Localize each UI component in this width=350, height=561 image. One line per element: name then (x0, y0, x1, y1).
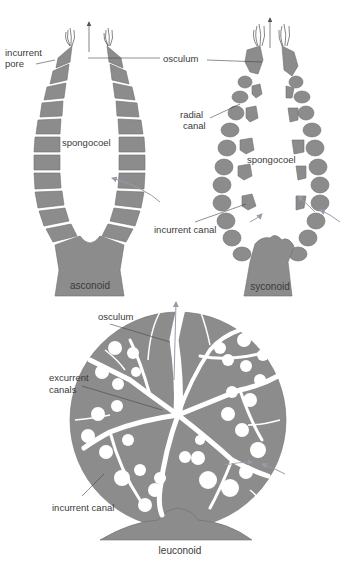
label-leuconoid-incurrent-canal: incurrent canal (52, 502, 114, 513)
asconoid-diagram (34, 22, 160, 296)
label-leuconoid-osculum: osculum (98, 311, 133, 322)
label-syconoid-spongocoel: spongocoel (247, 154, 296, 165)
caption-asconoid: asconoid (55, 280, 125, 291)
label-incurrent-pore-line1: incurrent (5, 47, 42, 58)
label-radial-canal-line1: radial (180, 109, 203, 120)
caption-syconoid: syconoid (235, 281, 305, 292)
label-incurrent-pore-line2: pore (5, 58, 24, 69)
label-radial-canal-line2: canal (183, 120, 206, 131)
label-osculum: osculum (163, 53, 198, 64)
caption-leuconoid: leuconoid (140, 545, 220, 556)
label-excurrent-canals-line2: canals (49, 384, 76, 395)
label-asconoid-spongocoel: spongocoel (62, 137, 111, 148)
label-syconoid-incurrent-canal: incurrent canal (154, 224, 216, 235)
label-excurrent-canals-line1: excurrent (49, 372, 89, 383)
